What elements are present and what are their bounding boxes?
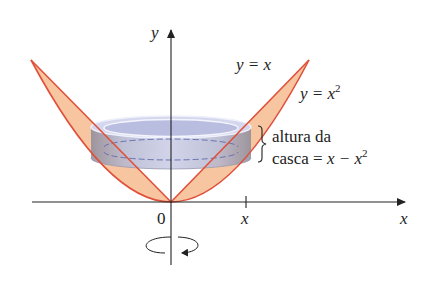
diagram-canvas: y x 0 x y = x y = x2 altura da casca = x… [0, 0, 423, 281]
parabola-label: y = x2 [298, 82, 341, 103]
y-axis-label: y [149, 23, 159, 42]
origin-label: 0 [157, 209, 166, 228]
annotation-line1: altura da [272, 127, 331, 146]
annotation-line2: casca = x − x2 [272, 147, 367, 168]
x-axis-label: x [399, 209, 408, 228]
line-label: y = x [234, 55, 272, 74]
rotation-arrow-icon [146, 237, 198, 253]
x-tick-label: x [240, 209, 249, 228]
